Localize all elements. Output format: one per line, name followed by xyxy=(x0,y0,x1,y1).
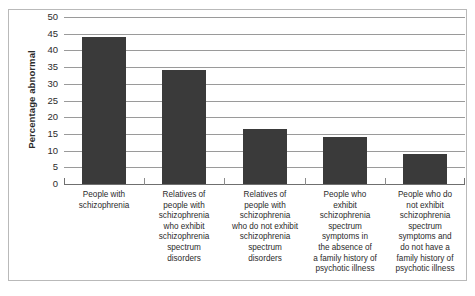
bar xyxy=(323,137,367,184)
x-axis-right-cap xyxy=(464,178,465,185)
category-label-line: Relatives of xyxy=(226,190,304,201)
category-label-line: Relatives of xyxy=(145,190,223,201)
category-label-line: symptoms in xyxy=(306,232,384,243)
x-axis-tick xyxy=(224,178,225,185)
category-label-line: exhibit xyxy=(306,201,384,212)
category-label-line: spectrum xyxy=(145,243,223,254)
category-label-line: people with xyxy=(145,201,223,212)
x-axis-tick xyxy=(305,178,306,185)
category-label-line: the absence of xyxy=(306,243,384,254)
category-label-line: schizophrenia xyxy=(226,232,304,243)
category-label-line: who do not exhibit xyxy=(226,222,304,233)
y-axis-title: Percentage abnormal xyxy=(26,15,37,185)
category-label-line: psychotic illness xyxy=(306,264,384,275)
bar-chart-figure: Percentage abnormal 05101520253035404550… xyxy=(0,0,475,296)
bar xyxy=(243,129,287,184)
gridline-45 xyxy=(64,34,465,35)
y-tick-label-20: 20 xyxy=(47,112,58,122)
category-label-line: spectrum xyxy=(226,243,304,254)
category-label-line: psychotic illness xyxy=(386,264,464,275)
category-label-line: schizophrenia xyxy=(145,211,223,222)
bar xyxy=(403,154,447,184)
category-label: People withschizophrenia xyxy=(65,190,143,211)
x-axis-tick xyxy=(144,178,145,185)
plot-area: 05101520253035404550 xyxy=(64,17,465,184)
category-label-line: do not have a xyxy=(386,243,464,254)
bar xyxy=(162,70,206,184)
y-tick-label-30: 30 xyxy=(47,79,58,89)
y-tick-label-15: 15 xyxy=(47,129,58,139)
x-axis-left-cap xyxy=(64,178,65,185)
category-label-line: people with xyxy=(226,201,304,212)
y-tick-label-25: 25 xyxy=(47,96,58,106)
y-tick-label-50: 50 xyxy=(47,12,58,22)
y-tick-label-35: 35 xyxy=(47,62,58,72)
category-label-line: schizophrenia xyxy=(145,232,223,243)
x-axis-baseline xyxy=(64,184,465,185)
y-tick-label-5: 5 xyxy=(53,163,58,173)
x-axis-category-labels: People withschizophreniaRelatives ofpeop… xyxy=(64,190,465,290)
y-tick-label-0: 0 xyxy=(53,179,58,189)
category-label-line: schizophrenia xyxy=(226,211,304,222)
category-label-line: who exhibit xyxy=(145,222,223,233)
category-label: Relatives ofpeople withschizophreniawho … xyxy=(145,190,223,264)
bar xyxy=(82,37,126,184)
category-label-line: spectrum xyxy=(386,222,464,233)
category-label-line: not exhibit xyxy=(386,201,464,212)
category-label: People whoexhibitschizophreniaspectrumsy… xyxy=(306,190,384,275)
category-label-line: disorders xyxy=(226,254,304,265)
y-tick-label-10: 10 xyxy=(47,146,58,156)
category-label: People who donot exhibitschizophreniaspe… xyxy=(386,190,464,275)
category-label: Relatives ofpeople withschizophreniawho … xyxy=(226,190,304,264)
category-label-line: schizophrenia xyxy=(386,211,464,222)
category-label-line: People who xyxy=(306,190,384,201)
category-label-line: schizophrenia xyxy=(306,211,384,222)
x-axis-tick xyxy=(385,178,386,185)
y-tick-label-45: 45 xyxy=(47,29,58,39)
category-label-line: family history of xyxy=(386,254,464,265)
gridline-50 xyxy=(64,17,465,18)
category-label-line: People who do xyxy=(386,190,464,201)
category-label-line: a family history of xyxy=(306,254,384,265)
category-label-line: People with xyxy=(65,190,143,201)
category-label-line: disorders xyxy=(145,254,223,265)
category-label-line: schizophrenia xyxy=(65,201,143,212)
y-tick-label-40: 40 xyxy=(47,46,58,56)
category-label-line: symptoms and xyxy=(386,232,464,243)
category-label-line: spectrum xyxy=(306,222,384,233)
